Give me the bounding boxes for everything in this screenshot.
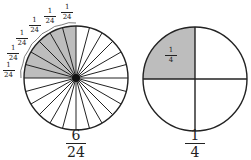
numerator: 1 [29, 17, 41, 24]
denominator: 24 [44, 18, 56, 25]
denominator: 24 [61, 14, 73, 21]
numerator: 1 [44, 8, 56, 15]
left-fraction-label: 624 [66, 128, 86, 159]
numerator: 1 [185, 128, 205, 142]
denominator: 4 [185, 145, 205, 159]
left-circle-divider [63, 78, 76, 128]
numerator: 1 [7, 45, 19, 52]
slice-fraction-label: 124 [29, 17, 41, 34]
slice-brace [21, 64, 23, 78]
left-circle-divider [76, 28, 89, 78]
slice-brace [62, 23, 76, 25]
numerator: 1 [61, 4, 73, 11]
left-circle-center-dot [72, 74, 80, 82]
quarter-inner-label: 14 [165, 47, 177, 64]
slice-fraction-label: 124 [7, 45, 19, 62]
slice-fraction-label: 124 [3, 62, 15, 79]
numerator: 6 [66, 128, 86, 142]
slice-fraction-label: 124 [61, 4, 73, 21]
slice-fraction-label: 124 [44, 8, 56, 25]
denominator: 4 [165, 57, 177, 64]
denominator: 24 [29, 27, 41, 34]
numerator: 1 [16, 30, 28, 37]
left-circle-divider [26, 78, 76, 91]
numerator: 1 [3, 62, 15, 69]
right-fraction-label: 14 [185, 128, 205, 159]
denominator: 24 [66, 145, 86, 159]
numerator: 1 [165, 47, 177, 54]
left-circle-divider [76, 78, 89, 128]
denominator: 24 [3, 72, 15, 79]
left-circle-divider [76, 78, 126, 91]
left-circle-divider [76, 65, 126, 78]
